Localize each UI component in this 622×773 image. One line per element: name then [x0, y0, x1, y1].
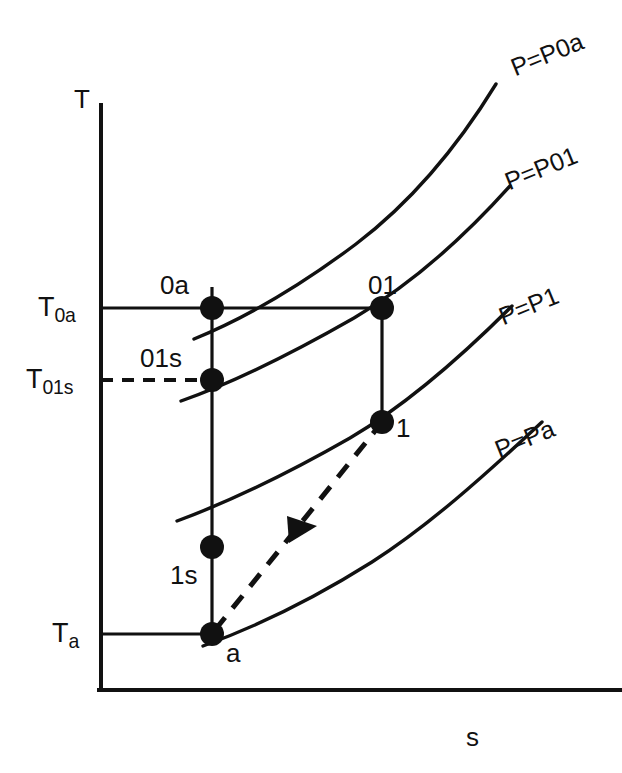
temperature-label-T0a-base: T — [38, 292, 55, 322]
state-point-label-01: 01 — [368, 272, 397, 298]
ts-diagram-canvas — [0, 0, 622, 773]
isobar-curve-P01 — [181, 186, 510, 401]
isobar-curve-P0a — [194, 84, 496, 339]
state-point-label-1: 1 — [396, 415, 410, 441]
state-point-0a — [200, 296, 224, 320]
ts-diagram: T s T0a T01s Ta 0a 01 01s 1 1s a P=P0a P… — [0, 0, 622, 773]
state-point-label-0a: 0a — [160, 272, 189, 298]
temperature-label-T01s-sub: 01s — [43, 376, 74, 398]
temperature-label-Ta-base: T — [52, 618, 69, 648]
state-point-1s — [200, 535, 224, 559]
temperature-label-T01s: T01s — [26, 366, 73, 398]
state-point-a — [200, 622, 224, 646]
isobar-curve-P1 — [177, 306, 512, 521]
entropy-axis-label: s — [466, 724, 479, 750]
state-point-label-01s: 01s — [140, 345, 182, 371]
temperature-axis-label: T — [74, 86, 90, 112]
temperature-label-T01s-base: T — [26, 364, 43, 394]
state-point-label-1s: 1s — [170, 562, 197, 588]
temperature-label-Ta-sub: a — [69, 630, 80, 652]
isobar-curve-Pa — [203, 422, 542, 646]
state-point-label-a: a — [226, 640, 240, 666]
temperature-label-T0a: T0a — [38, 294, 76, 326]
state-point-1 — [370, 410, 394, 434]
temperature-label-Ta: Ta — [52, 620, 79, 652]
state-point-01s — [200, 368, 224, 392]
temperature-label-T0a-sub: 0a — [55, 304, 76, 326]
